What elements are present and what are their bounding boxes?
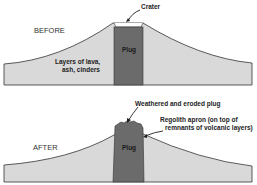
regolith-arrow	[145, 131, 163, 136]
after-eroded-plug	[113, 121, 144, 182]
layers-label-line1: Layers of lava,	[55, 58, 100, 65]
crater-label: Crater	[141, 3, 160, 10]
after-stage-label: AFTER	[33, 144, 58, 153]
before-stage-label: BEFORE	[34, 27, 65, 36]
before-crater	[114, 23, 143, 27]
eroded-plug-label: Weathered and eroded plug	[135, 100, 220, 107]
crater-arrow	[128, 10, 140, 21]
after-plug-label: Plug	[122, 144, 136, 151]
layers-label-line2: ash, cinders	[62, 66, 100, 73]
eroded-plug-arrow	[128, 107, 138, 121]
regolith-label-line1: Regolith apron (on top of	[160, 116, 238, 123]
before-plug	[114, 27, 143, 85]
before-plug-label: Plug	[122, 46, 136, 53]
regolith-label-line2: remnants of volcanic layers)	[165, 124, 253, 131]
